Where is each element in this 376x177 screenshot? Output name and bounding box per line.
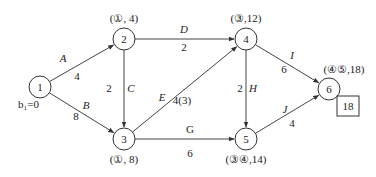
edge-name-label: C [127,82,135,94]
node-annotation: (③④,14) [225,153,266,166]
node-annotation: (③,12) [230,12,261,25]
edge-name-label: I [289,49,295,61]
node-label: 1 [37,81,43,93]
edge-name-label: A [59,52,67,64]
node-annotation: (④⑤,18) [323,63,364,76]
node-3: 3 [113,128,135,150]
edge-weight-label: 8 [73,110,79,122]
edge-name-label: H [248,82,258,94]
edge-b [49,93,113,133]
result-value: 18 [343,100,355,112]
node-label: 6 [326,83,332,95]
edges [49,39,318,139]
labels: A4B8C2D2E4(3)G6H2I6J4b₁=0(①, 4)(①, 8)(③,… [18,12,365,166]
node-annotation: b₁=0 [18,98,40,110]
edge-weight-label: 2 [181,41,187,53]
edge-weight-label: 4 [74,70,80,82]
node-2: 2 [113,28,135,50]
node-1: 1 [29,76,51,98]
result-box: 18 [337,96,359,116]
node-5: 5 [235,128,257,150]
edge-e [133,47,237,132]
edge-weight-label: 2 [237,82,243,94]
edge-weight-label: 6 [187,147,193,159]
edge-weight-label: 4(3) [173,94,192,107]
node-label: 2 [121,33,127,45]
edge-name-label: E [158,91,166,103]
network-diagram: 123456 A4B8C2D2E4(3)G6H2I6J4b₁=0(①, 4)(①… [0,0,376,177]
edge-name-label: J [283,103,289,115]
edge-weight-label: 2 [106,82,112,94]
edge-name-label: D [179,23,188,35]
edge-name-label: B [83,99,90,111]
edge-i [255,45,318,83]
node-annotation: (①, 8) [110,153,139,166]
node-annotation: (①, 4) [110,12,139,25]
node-label: 5 [243,133,249,145]
edge-weight-label: 4 [289,117,295,129]
node-4: 4 [235,28,257,50]
node-label: 4 [243,33,249,45]
node-label: 3 [121,133,127,145]
edge-weight-label: 6 [281,63,287,75]
edge-name-label: G [186,123,194,135]
